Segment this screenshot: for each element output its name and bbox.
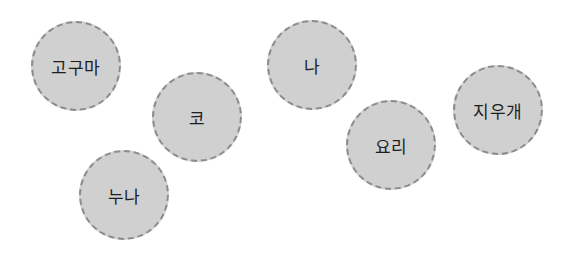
bubble-label: 누나 bbox=[108, 183, 141, 208]
word-bubble-ko: 코 bbox=[152, 72, 242, 162]
bubble-label: 코 bbox=[189, 105, 206, 130]
bubble-label: 요리 bbox=[375, 133, 408, 158]
bubble-label: 고구마 bbox=[51, 54, 101, 79]
word-bubble-diagram: 고구마 코 누나 나 요리 지우개 bbox=[0, 0, 572, 257]
bubble-label: 지우개 bbox=[473, 98, 523, 123]
word-bubble-jiugae: 지우개 bbox=[453, 65, 543, 155]
word-bubble-yori: 요리 bbox=[346, 100, 436, 190]
word-bubble-goguma: 고구마 bbox=[31, 21, 121, 111]
bubble-label: 나 bbox=[304, 53, 321, 78]
word-bubble-na: 나 bbox=[267, 20, 357, 110]
word-bubble-nuna: 누나 bbox=[79, 150, 169, 240]
